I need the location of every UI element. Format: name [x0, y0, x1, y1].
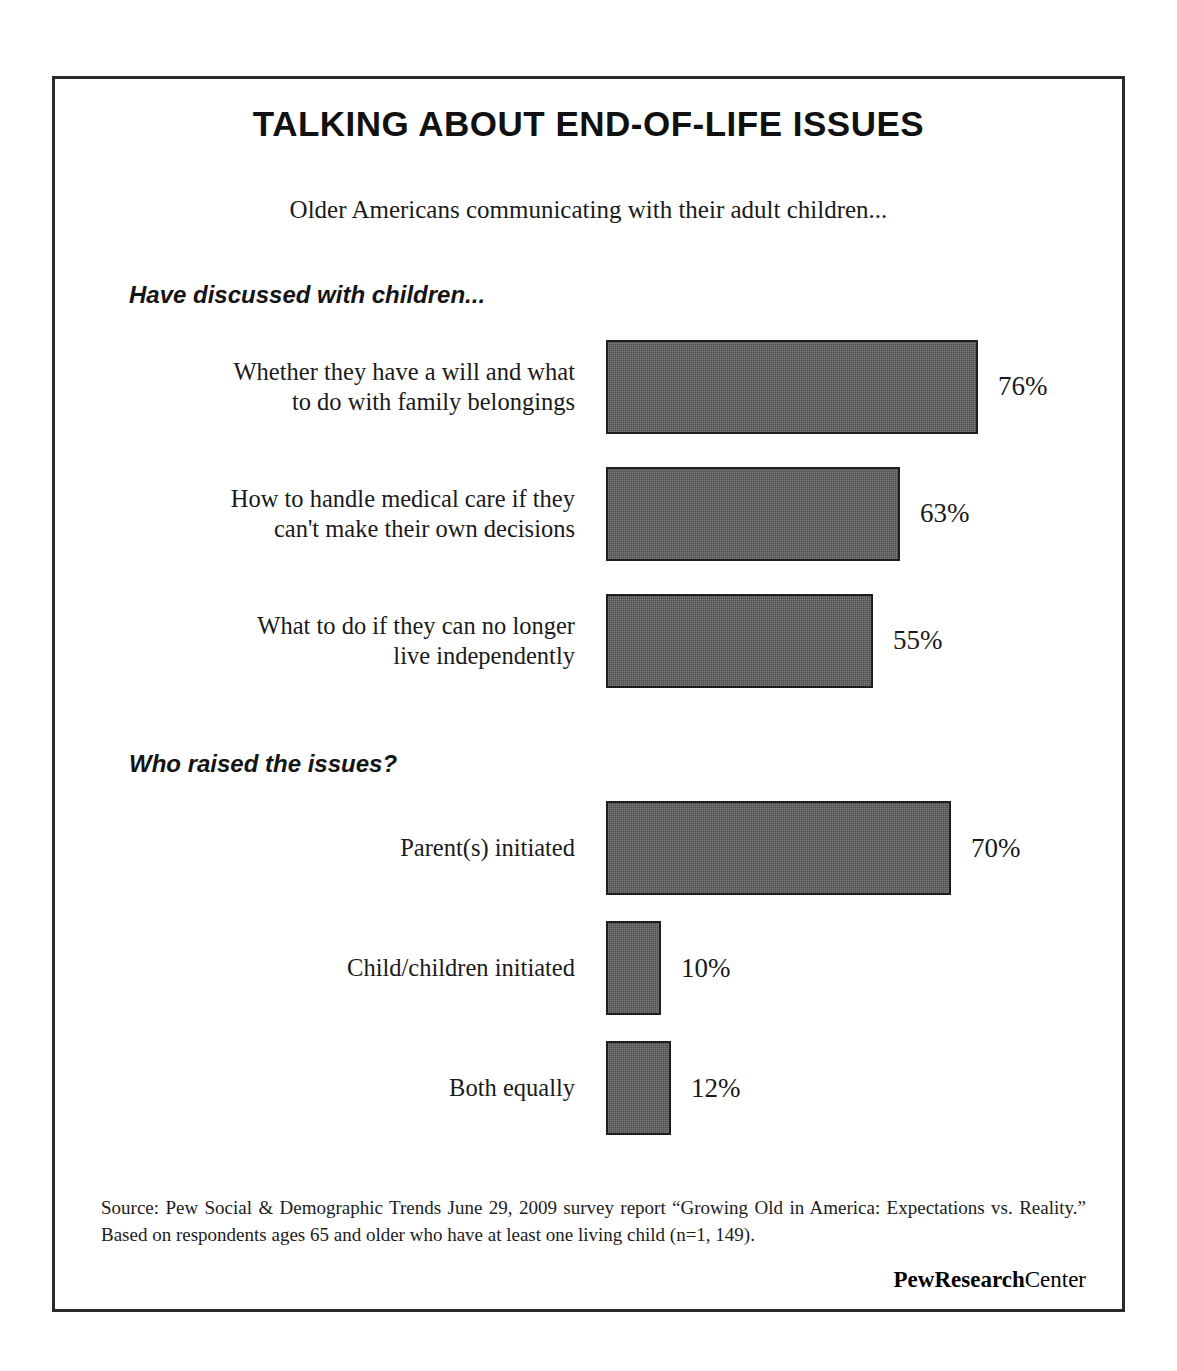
logo-light-text: Center: [1025, 1267, 1086, 1292]
pew-research-center-logo: PewResearchCenter: [101, 1267, 1086, 1293]
bar-label: Parent(s) initiated: [55, 833, 575, 863]
bar-row: Parent(s) initiated 70%: [55, 788, 1122, 908]
bar-value-label: 12%: [671, 1073, 741, 1104]
bar-row: Child/children initiated 10%: [55, 908, 1122, 1028]
bar-label: Child/children initiated: [55, 953, 575, 983]
bar-row: What to do if they can no longer live in…: [55, 577, 1122, 704]
bar-fill: [606, 467, 900, 561]
bar-fill: [606, 801, 951, 895]
bar-track: 10%: [575, 921, 1122, 1015]
source-note: Source: Pew Social & Demographic Trends …: [101, 1195, 1086, 1249]
chart-subtitle: Older Americans communicating with their…: [55, 196, 1122, 224]
bar-label: How to handle medical care if they can't…: [55, 484, 575, 544]
bar-track: 12%: [575, 1041, 1122, 1135]
bar-fill: [606, 1041, 671, 1135]
bar-value-label: 55%: [873, 625, 943, 656]
bar-track: 55%: [575, 594, 1122, 688]
bar-fill: [606, 921, 661, 1015]
page-title: TALKING ABOUT END-OF-LIFE ISSUES: [55, 105, 1122, 144]
bar-fill: [606, 340, 978, 434]
bar-value-label: 70%: [951, 833, 1021, 864]
bar-row: How to handle medical care if they can't…: [55, 450, 1122, 577]
logo-bold-text: PewResearch: [894, 1267, 1025, 1292]
section-heading-who-raised: Who raised the issues?: [129, 750, 1122, 778]
chart-footer: Source: Pew Social & Demographic Trends …: [101, 1195, 1086, 1293]
bar-fill: [606, 594, 873, 688]
bar-group-discussed: Whether they have a will and what to do …: [55, 323, 1122, 704]
bar-track: 70%: [575, 801, 1122, 895]
bar-value-label: 76%: [978, 371, 1048, 402]
bar-value-label: 10%: [661, 953, 731, 984]
bar-value-label: 63%: [900, 498, 970, 529]
bar-row: Whether they have a will and what to do …: [55, 323, 1122, 450]
bar-label: What to do if they can no longer live in…: [55, 611, 575, 671]
bar-track: 76%: [575, 340, 1122, 434]
chart-card: TALKING ABOUT END-OF-LIFE ISSUES Older A…: [52, 76, 1125, 1312]
bar-label: Both equally: [55, 1073, 575, 1103]
bar-label: Whether they have a will and what to do …: [55, 357, 575, 417]
section-heading-discussed: Have discussed with children...: [129, 281, 1122, 309]
bar-group-who-raised: Parent(s) initiated 70% Child/children i…: [55, 788, 1122, 1148]
bar-track: 63%: [575, 467, 1122, 561]
bar-row: Both equally 12%: [55, 1028, 1122, 1148]
